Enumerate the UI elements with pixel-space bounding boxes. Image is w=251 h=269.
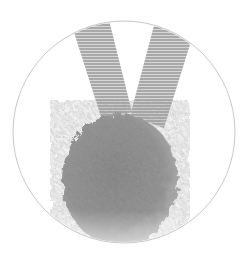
product-image bbox=[0, 0, 251, 269]
